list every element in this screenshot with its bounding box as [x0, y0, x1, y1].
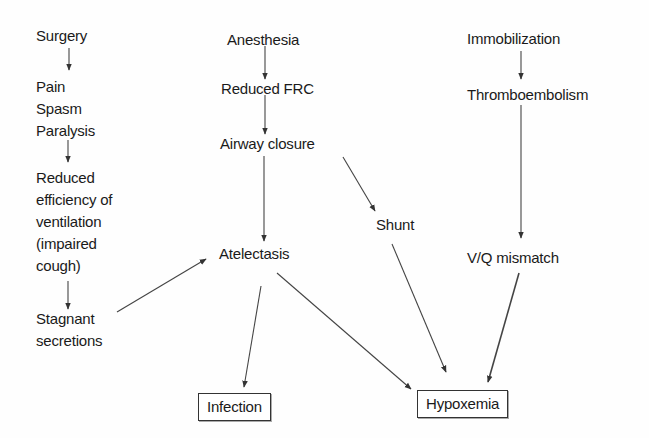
arrow-airway-to-shunt: [343, 157, 375, 211]
node-paralysis: Paralysis: [36, 121, 95, 140]
node-atelectasis: Atelectasis: [219, 244, 289, 263]
node-immobilization: Immobilization: [467, 29, 560, 48]
node-reduced-frc: Reduced FRC: [221, 79, 314, 98]
flowchart-canvas: Surgery Pain Spasm Paralysis Reduced eff…: [0, 0, 649, 438]
node-pain: Pain: [36, 77, 65, 96]
node-reduced-efficiency-line2: efficiency of: [36, 190, 112, 209]
node-hypoxemia: Hypoxemia: [417, 390, 508, 418]
node-stagnant-line2: secretions: [36, 331, 102, 350]
node-reduced-efficiency-line5: cough): [36, 256, 81, 275]
node-anesthesia: Anesthesia: [227, 30, 299, 49]
node-airway-closure: Airway closure: [220, 134, 315, 153]
arrow-stagnant-to-atelectasis: [117, 259, 206, 312]
node-reduced-efficiency-line1: Reduced: [36, 168, 95, 187]
node-thromboembolism: Thromboembolism: [467, 85, 588, 104]
node-surgery: Surgery: [36, 26, 87, 45]
node-reduced-efficiency-line3: ventilation: [36, 212, 101, 231]
node-infection: Infection: [198, 393, 271, 421]
node-stagnant-line1: Stagnant: [36, 309, 94, 328]
node-shunt: Shunt: [376, 215, 414, 234]
arrow-vq-to-hypoxemia: [488, 273, 519, 382]
arrow-atelectasis-to-infection: [244, 286, 261, 387]
node-reduced-efficiency-line4: (impaired: [36, 234, 97, 253]
arrow-shunt-to-hypoxemia: [392, 244, 446, 372]
node-spasm: Spasm: [36, 99, 82, 118]
arrow-atelectasis-to-hypoxemia: [277, 273, 411, 389]
node-vq-mismatch: V/Q mismatch: [467, 248, 559, 267]
